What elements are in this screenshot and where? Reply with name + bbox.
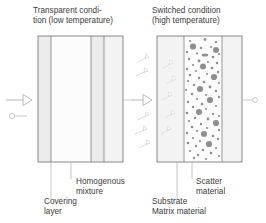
covering-layer-right-fill: [91, 36, 104, 162]
incident-light-arrow-left: [6, 95, 32, 106]
callout-homogenous-line2: mixture: [76, 187, 103, 196]
transparent-state-panel: [38, 36, 123, 162]
callout-label-homogenous-mixture: Homogenousmixture: [76, 177, 125, 196]
callout-label-substrate-matrix: SubstrateMatrix material: [152, 197, 206, 216]
callout-covering-line1: Covering: [44, 197, 77, 206]
callout-scatter-line2: material: [196, 187, 225, 196]
substrate-right-fill: [157, 36, 184, 162]
covering-layer-right-panel-fill: [222, 36, 242, 162]
panel-title-right: Switched condition (high temperature): [152, 6, 221, 25]
incident-light-arrow-right: [132, 95, 152, 106]
callout-substrate-line2: Matrix material: [152, 207, 206, 216]
callout-label-scatter-material: Scattermaterial: [196, 177, 225, 196]
small-ray-marker-left: [9, 113, 27, 118]
diagram-canvas: [0, 0, 266, 223]
callout-substrate-line1: Substrate: [152, 197, 187, 206]
covering-layer-left-fill: [38, 36, 51, 162]
callout-label-covering-layer: Coveringlayer: [44, 197, 77, 216]
homogenous-mixture-fill: [51, 36, 91, 162]
callout-covering-line2: layer: [44, 207, 62, 216]
switched-state-panel: [157, 36, 242, 162]
callout-scatter-line1: Scatter: [196, 177, 222, 186]
transmitted-light-arrow-right: [242, 98, 257, 103]
callout-homogenous-line1: Homogenous: [76, 177, 125, 186]
panel-title-left: Transparent condi- tion (low temperature…: [33, 6, 113, 25]
substrate-left-fill: [104, 36, 123, 162]
